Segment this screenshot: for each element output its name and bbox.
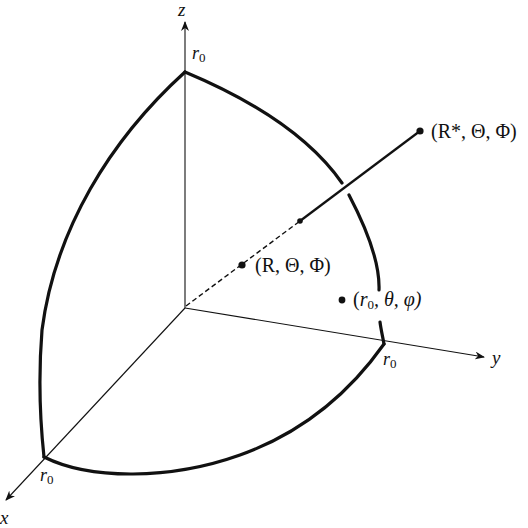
y-axis-label: y <box>492 348 500 367</box>
point-inner-start-dot <box>297 218 303 224</box>
z-axis-label: z <box>178 0 185 19</box>
radial-line-solid <box>300 131 420 221</box>
radius-label-right: r0 <box>383 350 397 370</box>
sphere-arc-top-right-bottom <box>380 322 384 344</box>
sphere-arc-top-right-upper <box>185 72 342 183</box>
point-inner-label: (R, Θ, Φ) <box>255 255 331 275</box>
y-axis <box>185 308 484 357</box>
x-axis-label: x <box>0 508 8 527</box>
radius-label-front: r0 <box>40 466 54 486</box>
point-surface-label: (r0, θ, φ) <box>353 289 422 311</box>
sphere-arc-front <box>40 72 185 457</box>
point-outer-label: (R*, Θ, Φ) <box>431 121 517 141</box>
radius-label-top: r0 <box>192 44 206 64</box>
sphere-arc-bottom <box>44 344 384 474</box>
point-outer-dot <box>416 127 423 134</box>
point-inner-dot <box>238 261 245 268</box>
sphere-arc-top-right-lower <box>349 195 379 290</box>
point-surface-dot <box>339 297 346 304</box>
